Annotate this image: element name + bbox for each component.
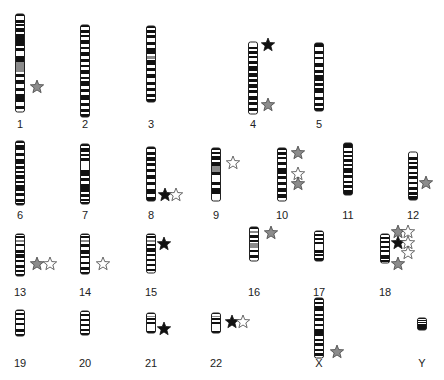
chromosome-band: [315, 63, 324, 67]
white-star-icon: [401, 246, 414, 259]
chromosome-band: [147, 30, 156, 33]
chromosome-band: [147, 157, 156, 161]
chromosome-band: [250, 235, 259, 238]
chromosome-band: [409, 162, 418, 164]
chromosome-band: [250, 255, 259, 258]
chromosome-band: [81, 170, 90, 176]
chromosome-band: [81, 324, 90, 326]
chromosome-band: [409, 182, 418, 184]
chromosome-band: [315, 242, 324, 244]
chromosome-band: [418, 324, 427, 330]
chromosome-band: [315, 83, 324, 86]
chromosome-band: [147, 68, 156, 71]
chromosome-band: [147, 269, 156, 271]
chromosome-band: [344, 159, 353, 162]
chromosome-band: [278, 194, 287, 198]
chromosome-band: [81, 262, 90, 264]
chromosome-band: [278, 162, 287, 165]
chromosome-band: [147, 88, 156, 91]
chromosome-label-1: 1: [17, 118, 23, 130]
chromosome-label-3: 3: [148, 118, 154, 130]
chromosome-10: [278, 146, 305, 201]
chromosome-band: [81, 103, 90, 106]
chromosome-band: [315, 302, 324, 304]
chromosome-band: [249, 73, 258, 77]
chromosome-20: [81, 311, 90, 335]
chromosome-7: [81, 144, 90, 204]
chromosome-band: [147, 175, 156, 179]
chromosome-band: [344, 155, 353, 157]
chromosome-label-22: 22: [210, 357, 222, 369]
chromosome-band: [81, 52, 90, 56]
chromosome-label-20: 20: [79, 357, 91, 369]
chromosome-band: [315, 238, 324, 240]
chromosome-label-13: 13: [14, 286, 26, 298]
chromosome-band: [249, 84, 258, 88]
chromosome-band: [16, 56, 25, 62]
chromosome-band: [16, 199, 25, 202]
chromosome-band: [16, 166, 25, 169]
chromosome-band: [81, 158, 90, 161]
chromosome-band: [16, 88, 25, 91]
chromosome-band: [147, 74, 156, 78]
chromosome-band: [315, 103, 324, 106]
gray-star-icon: [291, 146, 304, 159]
gray-star-icon: [391, 257, 404, 270]
white-star-icon: [43, 257, 56, 270]
chromosome-22: [212, 313, 250, 333]
gray-star-icon: [419, 176, 432, 189]
chromosome-band: [409, 166, 418, 169]
chromosome-band: [315, 43, 324, 47]
chromosome-band: [147, 56, 156, 59]
chromosome-band: [81, 329, 90, 331]
chromosome-band: [147, 236, 156, 238]
chromosome-band: [381, 241, 390, 243]
chromosome-band: [81, 267, 90, 270]
chromosome-band: [16, 159, 25, 164]
chromosome-band: [147, 259, 156, 261]
chromosome-band: [409, 196, 418, 200]
chromosome-band: [81, 250, 90, 254]
chromosome-band: [16, 250, 25, 253]
chromosome-band: [16, 80, 25, 84]
chromosome-6: [16, 141, 25, 205]
chromosome-band: [409, 187, 418, 190]
chromosome-label-Y: Y: [418, 357, 425, 369]
chromosome-band: [409, 157, 418, 160]
chromosome-band: [418, 322, 427, 323]
chromosome-2: [81, 25, 90, 117]
chromosome-label-17: 17: [313, 286, 325, 298]
chromosome-band: [81, 65, 90, 67]
chromosome-label-9: 9: [213, 209, 219, 221]
chromosome-band: [381, 255, 390, 259]
chromosome-17: [315, 231, 324, 261]
chromosome-label-15: 15: [145, 286, 157, 298]
chromosome-band: [81, 95, 90, 100]
chromosome-band: [81, 77, 90, 79]
chromosome-band: [147, 169, 156, 172]
chromosome-band: [315, 339, 324, 341]
chromosome-band: [147, 318, 156, 320]
white-star-icon: [96, 257, 109, 270]
chromosome-band: [212, 166, 221, 172]
chromosome-band: [249, 66, 258, 71]
chromosome-band: [249, 90, 258, 93]
chromosome-14: [81, 234, 110, 274]
chromosome-band: [344, 175, 353, 178]
chromosome-8: [147, 147, 183, 201]
chromosome-band: [315, 324, 324, 326]
chromosome-band: [147, 42, 156, 45]
chromosome-label-4: 4: [250, 118, 256, 130]
chromosome-4: [249, 38, 275, 114]
chromosome-label-5: 5: [316, 118, 322, 130]
chromosome-band: [81, 59, 90, 62]
chromosome-band: [147, 48, 156, 54]
chromosome-band: [81, 244, 90, 247]
chromosome-band: [315, 254, 324, 256]
chromosome-label-18: 18: [379, 286, 391, 298]
gray-star-icon: [330, 345, 343, 358]
chromosome-band: [381, 246, 390, 248]
chromosome-band: [81, 194, 90, 197]
black-star-icon: [158, 188, 171, 201]
chromosome-band: [315, 75, 324, 81]
